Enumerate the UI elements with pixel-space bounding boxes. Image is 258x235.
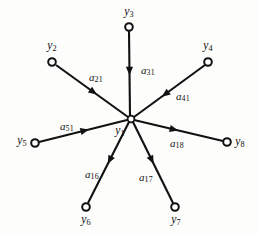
edge-label-a17-subscript: 17	[145, 175, 153, 184]
edge-label-a41: a41	[176, 91, 190, 104]
node-label-y3-subscript: 3	[129, 10, 133, 19]
node-label-y6-subscript: 6	[86, 218, 90, 227]
node-label-y7-subscript: 7	[176, 218, 180, 227]
node-label-y4: y4	[203, 40, 212, 53]
node-label-y2-subscript: 2	[52, 44, 56, 53]
node-y2	[48, 58, 56, 66]
edge-label-a31: a31	[141, 65, 155, 78]
graph-canvas	[0, 0, 258, 235]
node-label-y4-subscript: 4	[208, 44, 212, 53]
edge-label-a18-subscript: 18	[176, 141, 184, 150]
node-label-y7: y7	[171, 214, 180, 227]
node-label-y3: y3	[124, 6, 133, 19]
node-y4	[204, 58, 212, 66]
node-label-y6: y6	[81, 214, 90, 227]
node-label-y8-subscript: 8	[240, 140, 244, 149]
node-label-y8: y8	[235, 136, 244, 149]
edge-label-a51-subscript: 51	[66, 124, 74, 133]
edge-label-a17: a17	[139, 172, 153, 185]
node-y3	[125, 23, 133, 31]
edge-label-a51: a51	[60, 121, 74, 134]
arrowhead-a31	[126, 67, 133, 76]
node-y8	[223, 138, 231, 146]
node-label-y5-subscript: 5	[22, 139, 26, 148]
edge-label-a18: a18	[170, 138, 184, 151]
node-y1	[128, 116, 135, 123]
signal-flow-graph-figure: a21a31a41a51a18a16a17y1y2y3y4y5y6y7y8	[0, 0, 258, 235]
node-y5	[31, 139, 39, 147]
node-label-y1: y1	[115, 125, 124, 138]
node-y6	[82, 203, 90, 211]
edge-label-a16: a16	[85, 169, 99, 182]
edge-label-a21-subscript: 21	[95, 75, 103, 84]
node-y7	[171, 203, 179, 211]
edge-label-a16-subscript: 16	[91, 172, 99, 181]
edge-label-a41-subscript: 41	[182, 94, 190, 103]
node-label-y5: y5	[17, 135, 26, 148]
node-label-y1-subscript: 1	[120, 129, 124, 138]
node-label-y2: y2	[47, 40, 56, 53]
edge-label-a31-subscript: 31	[147, 68, 155, 77]
nodes-group	[31, 23, 231, 211]
edge-label-a21: a21	[89, 72, 103, 85]
